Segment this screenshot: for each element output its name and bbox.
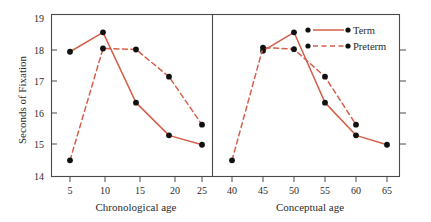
legend-label-term: Term <box>353 25 375 36</box>
plot-frame <box>52 15 400 177</box>
x-tick-label-left-20: 20 <box>170 185 180 196</box>
y-axis-title: Seconds of Fixation <box>16 56 28 144</box>
y-axis-ticks-right <box>400 50 407 144</box>
x-tick-label-left-25: 25 <box>197 185 207 196</box>
y-tick-label-14: 14 <box>34 171 44 182</box>
y-tick-label-17: 17 <box>34 76 44 87</box>
fixation-two-panel-line-chart: 19 18 17 16 15 14 Seconds of Fixation 5 … <box>0 0 431 222</box>
x-tick-label-right-60: 60 <box>351 185 361 196</box>
data-point-term-15 <box>133 100 139 106</box>
data-series-layer <box>67 29 390 163</box>
x-axis-title-right-panel: Conceptual age <box>276 201 344 213</box>
x-tick-label-left-10: 10 <box>100 185 110 196</box>
x-axis-ticks-left-panel <box>70 177 202 183</box>
legend-term-marker-left <box>305 27 310 32</box>
x-tick-label-right-65: 65 <box>382 185 392 196</box>
x-tick-label-left-5: 5 <box>68 185 73 196</box>
data-point-preterm-25 <box>199 122 205 128</box>
data-point-preterm-50 <box>291 46 297 52</box>
data-point-term-25 <box>199 142 205 148</box>
data-point-preterm-20 <box>166 74 172 80</box>
data-point-term-55 <box>322 100 328 106</box>
legend-preterm-marker-left <box>305 43 310 48</box>
legend-preterm-marker-right <box>345 43 350 48</box>
data-point-term-10 <box>100 29 106 35</box>
y-tick-label-19: 19 <box>34 13 44 24</box>
legend-label-preterm: Preterm <box>353 41 386 52</box>
data-point-term-65 <box>384 142 390 148</box>
x-axis-title-left-panel: Chronological age <box>96 201 177 213</box>
data-point-preterm-40 <box>229 157 235 163</box>
y-tick-label-16: 16 <box>34 108 44 119</box>
y-tick-label-18: 18 <box>34 45 44 56</box>
data-point-preterm-45 <box>260 45 266 51</box>
x-tick-label-right-40: 40 <box>227 185 237 196</box>
y-tick-label-15: 15 <box>34 139 44 150</box>
data-point-preterm-60 <box>353 122 359 128</box>
x-tick-label-right-50: 50 <box>289 185 299 196</box>
legend: Term Preterm <box>305 25 386 52</box>
data-point-term-50 <box>291 29 297 35</box>
x-tick-label-right-55: 55 <box>320 185 330 196</box>
x-tick-label-right-45: 45 <box>258 185 268 196</box>
series-line-preterm-panel-2 <box>232 48 356 161</box>
y-axis-ticks-left <box>52 50 58 144</box>
data-point-preterm-10 <box>100 46 106 52</box>
data-point-preterm-55 <box>322 74 328 80</box>
data-point-term-20 <box>166 132 172 138</box>
data-point-preterm-15 <box>133 47 139 53</box>
legend-term-marker-right <box>345 27 350 32</box>
data-point-term-60 <box>353 132 359 138</box>
x-tick-label-left-15: 15 <box>135 185 145 196</box>
x-axis-ticks-right-panel <box>232 177 387 183</box>
data-point-preterm-5 <box>67 157 73 163</box>
data-point-term-5 <box>67 49 73 55</box>
